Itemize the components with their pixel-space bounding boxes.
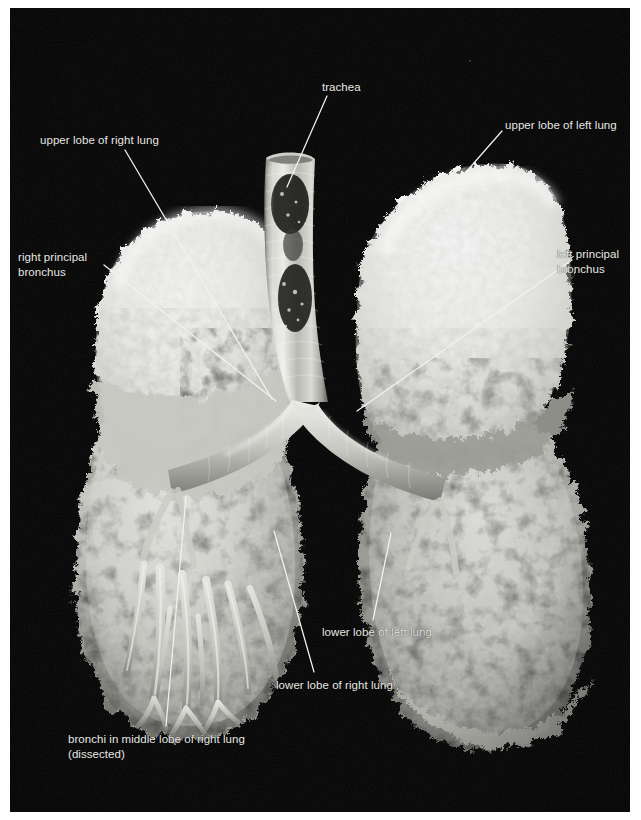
label-trachea: trachea — [322, 80, 361, 95]
dust-speck — [469, 60, 471, 62]
label-left-principal-bronchus: left principal bronchus — [557, 247, 619, 276]
label-lower-lobe-right-lung: lower lobe of right lung — [276, 678, 393, 693]
anatomy-figure: trachea upper lobe of right lung upper l… — [0, 0, 641, 820]
label-upper-lobe-right-lung: upper lobe of right lung — [40, 133, 159, 148]
label-bronchi-middle-lobe-right-lung: bronchi in middle lobe of right lung (di… — [68, 732, 245, 761]
label-right-principal-bronchus: right principal bronchus — [18, 250, 87, 279]
label-upper-lobe-left-lung: upper lobe of left lung — [505, 118, 617, 133]
lung-cast-photograph: trachea upper lobe of right lung upper l… — [10, 8, 630, 812]
label-lower-lobe-left-lung: lower lobe of left lung — [322, 625, 432, 640]
